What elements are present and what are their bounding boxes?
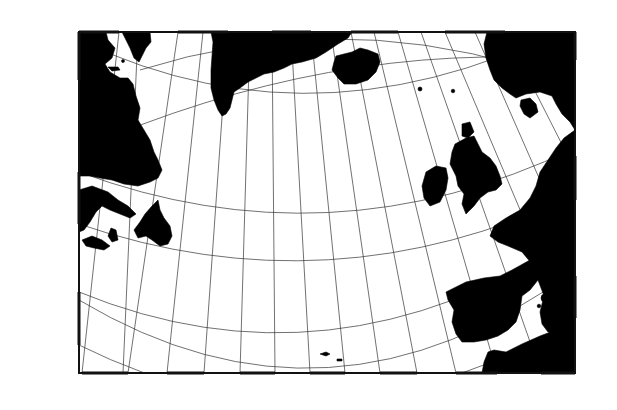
north-atlantic-map	[0, 0, 617, 410]
greenland	[211, 32, 352, 116]
baffin-island	[79, 32, 162, 186]
ireland	[422, 166, 448, 206]
iceland	[332, 48, 380, 84]
landmasses	[79, 32, 575, 373]
